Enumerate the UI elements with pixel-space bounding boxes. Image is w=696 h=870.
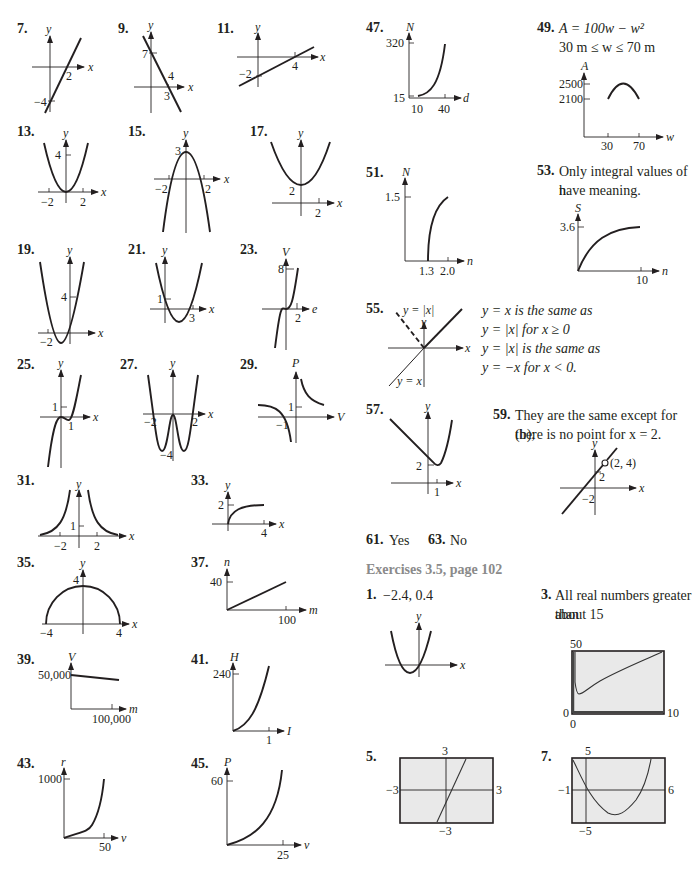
svg-text:25: 25 <box>277 848 289 862</box>
svg-text:−1: −1 <box>558 783 571 797</box>
svg-text:v: v <box>304 838 310 852</box>
section-exercise-7-calculator-screen: 5 −1 6 −5 <box>0 0 696 840</box>
svg-text:6: 6 <box>668 783 674 797</box>
svg-text:−5: −5 <box>579 824 592 838</box>
svg-text:5: 5 <box>585 744 591 758</box>
